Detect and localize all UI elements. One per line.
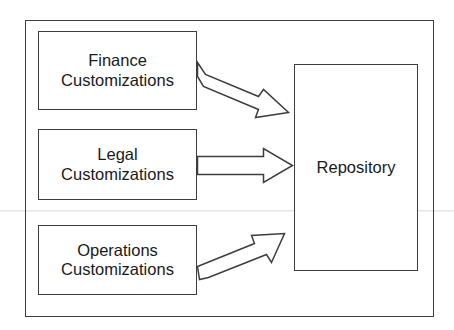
node-repository[interactable]: Repository	[294, 64, 418, 271]
node-legal-label-line1: Legal	[97, 145, 137, 164]
diagram-canvas: Finance Customizations Legal Customizati…	[0, 0, 454, 330]
node-repository-label: Repository	[317, 158, 396, 177]
node-operations-label-line1: Operations	[77, 241, 158, 260]
node-legal-label-line2: Customizations	[61, 165, 174, 184]
node-legal-customizations[interactable]: Legal Customizations	[38, 129, 197, 200]
node-operations-customizations[interactable]: Operations Customizations	[38, 225, 197, 295]
node-operations-label-line2: Customizations	[61, 260, 174, 279]
node-finance-label-line1: Finance	[88, 51, 147, 70]
node-finance-customizations[interactable]: Finance Customizations	[38, 31, 197, 110]
node-finance-label-line2: Customizations	[61, 71, 174, 90]
